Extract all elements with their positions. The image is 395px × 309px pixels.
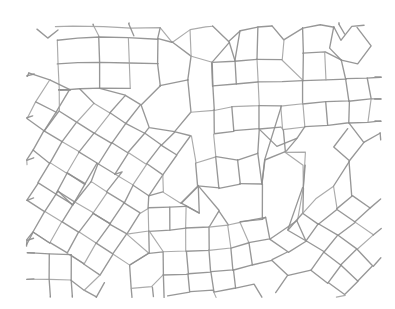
tile-edge [303,28,304,81]
tile-edge [303,188,304,213]
tiling-canvas [0,0,395,309]
figure-background [0,0,395,309]
tile-edge [149,231,150,253]
tiling-figure-root: Geometric tiling pattern [0,0,395,309]
tile-edge [257,27,258,59]
tile-edge-stub [375,121,381,122]
tile-edge [148,196,149,208]
tile-edge-stub [27,279,34,280]
tile-edge [212,62,213,86]
tile-edge [380,133,381,140]
